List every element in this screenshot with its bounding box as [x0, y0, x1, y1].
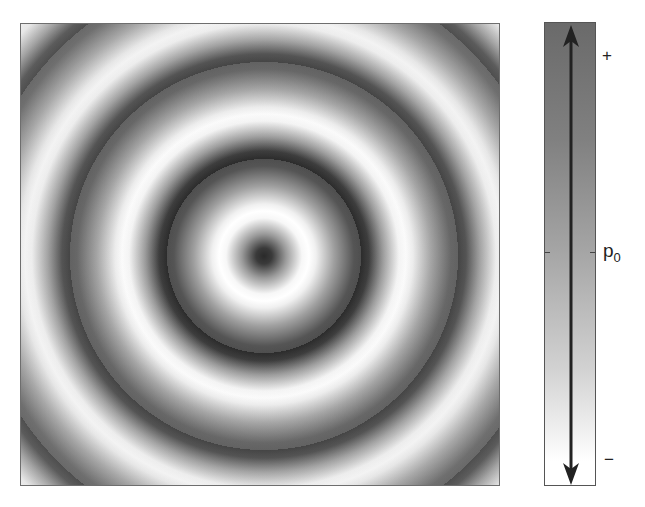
- pressure-colorbar: [544, 22, 596, 486]
- colorbar-plus-label: +: [602, 46, 612, 66]
- pressure-wave-field: [20, 23, 500, 486]
- colorbar-minus-label: −: [604, 450, 614, 470]
- colorbar-p0-label: p0: [603, 240, 621, 265]
- field-shading: [21, 24, 499, 485]
- p-symbol: p: [603, 240, 614, 261]
- double-arrow-icon: [545, 23, 597, 487]
- p-subscript: 0: [614, 250, 621, 265]
